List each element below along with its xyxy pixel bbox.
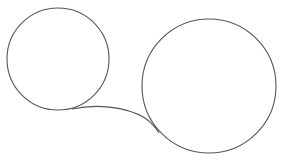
connector-curve	[72, 106, 159, 133]
large-circle	[142, 19, 276, 153]
diagram-canvas	[0, 0, 282, 162]
small-circle	[7, 8, 109, 110]
